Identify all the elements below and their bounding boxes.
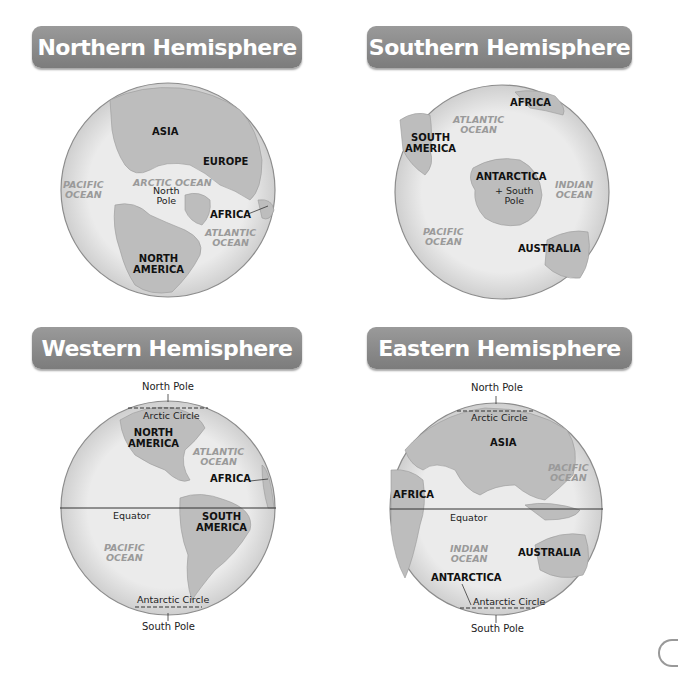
- label-asia: ASIA: [152, 127, 178, 138]
- label-asia: ASIA: [490, 438, 516, 449]
- western-hemisphere-panel: Western Hemisphere North Pole Arctic Cir…: [0, 320, 335, 675]
- eastern-globe: [335, 320, 670, 675]
- label-africa: AFRICA: [210, 210, 251, 221]
- label-arctic-circle: Arctic Circle: [471, 413, 528, 423]
- label-pacific-ocean: PACIFIC OCEAN: [548, 463, 589, 483]
- label-north-pole: North Pole: [142, 382, 194, 393]
- label-antarctic-circle: Antarctic Circle: [473, 597, 545, 607]
- label-africa: AFRICA: [210, 474, 251, 485]
- label-europe: EUROPE: [203, 157, 248, 168]
- eastern-hemisphere-panel: Eastern Hemisphere North Pole Arctic Cir…: [335, 320, 670, 675]
- label-australia: AUSTRALIA: [518, 244, 581, 255]
- label-pacific-ocean: PACIFIC OCEAN: [423, 227, 464, 247]
- label-south-pole: South Pole: [471, 624, 524, 635]
- label-south-pole: + South Pole: [495, 186, 534, 206]
- label-north-pole: North Pole: [471, 383, 523, 394]
- label-south-america: SOUTH AMERICA: [196, 512, 247, 533]
- label-indian-ocean: INDIAN OCEAN: [555, 180, 593, 200]
- label-antarctic-circle: Antarctic Circle: [137, 595, 209, 605]
- label-antarctica: ANTARCTICA: [476, 172, 547, 183]
- label-north-pole: North Pole: [153, 186, 180, 206]
- label-arctic-circle: Arctic Circle: [143, 411, 200, 421]
- label-atlantic-ocean: ATLANTIC OCEAN: [453, 115, 504, 135]
- label-atlantic-ocean: ATLANTIC OCEAN: [205, 228, 256, 248]
- label-australia: AUSTRALIA: [518, 548, 581, 559]
- label-south-america: SOUTH AMERICA: [405, 133, 456, 154]
- label-antarctica: ANTARCTICA: [431, 573, 502, 584]
- label-africa: AFRICA: [510, 98, 551, 109]
- label-equator: Equator: [113, 511, 150, 521]
- label-pacific-ocean: PACIFIC OCEAN: [63, 180, 104, 200]
- page-corner-decoration: [658, 639, 678, 667]
- label-pacific-ocean: PACIFIC OCEAN: [104, 543, 145, 563]
- southern-globe: [335, 0, 670, 310]
- northern-hemisphere-panel: Northern Hemisphere ASIA EUROPE ARCTIC O…: [0, 0, 335, 310]
- label-north-america: NORTH AMERICA: [133, 254, 184, 275]
- label-africa: AFRICA: [393, 490, 434, 501]
- label-equator: Equator: [450, 513, 487, 523]
- label-south-pole: South Pole: [142, 622, 195, 633]
- label-north-america: NORTH AMERICA: [128, 428, 179, 449]
- southern-hemisphere-panel: Southern Hemisphere AFRICA ATLANTIC OCEA…: [335, 0, 670, 310]
- label-atlantic-ocean: ATLANTIC OCEAN: [193, 447, 244, 467]
- label-indian-ocean: INDIAN OCEAN: [450, 544, 488, 564]
